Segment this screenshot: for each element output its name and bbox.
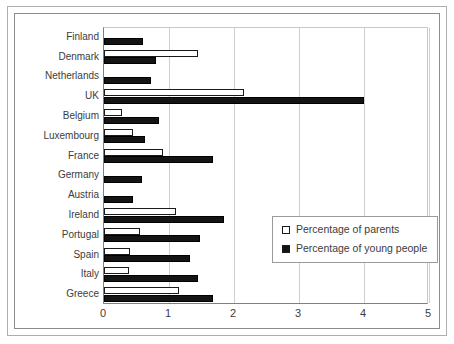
bar-belgium-parents bbox=[104, 109, 122, 116]
bar-austria-young-people bbox=[104, 196, 133, 203]
x-tick-2: 2 bbox=[221, 307, 245, 319]
bar-greece-young-people bbox=[104, 295, 213, 302]
bar-denmark-young-people bbox=[104, 57, 156, 64]
bar-luxembourg-young-people bbox=[104, 136, 145, 143]
category-label-greece: Greece bbox=[14, 288, 99, 299]
x-tick-0: 0 bbox=[91, 307, 115, 319]
legend-box: Percentage of parents Percentage of youn… bbox=[272, 216, 438, 263]
category-label-spain: Spain bbox=[14, 249, 99, 260]
bar-greece-parents bbox=[104, 287, 179, 294]
bar-row bbox=[104, 147, 427, 167]
bar-spain-young-people bbox=[104, 255, 190, 262]
bar-luxembourg-parents bbox=[104, 129, 133, 136]
chart-figure: FinlandDenmarkNetherlandsUKBelgiumLuxemb… bbox=[0, 0, 454, 344]
legend-item-young-people: Percentage of young people bbox=[282, 243, 427, 254]
bar-row bbox=[104, 167, 427, 187]
bar-row bbox=[104, 265, 427, 285]
category-label-belgium: Belgium bbox=[14, 110, 99, 121]
bar-uk-parents bbox=[104, 89, 244, 96]
legend-label-young-people: Percentage of young people bbox=[296, 243, 427, 254]
bar-portugal-parents bbox=[104, 228, 140, 235]
bar-belgium-young-people bbox=[104, 117, 159, 124]
bar-france-young-people bbox=[104, 156, 213, 163]
bar-row bbox=[104, 127, 427, 147]
bar-row bbox=[104, 68, 427, 88]
bar-portugal-young-people bbox=[104, 235, 200, 242]
category-label-germany: Germany bbox=[14, 169, 99, 180]
x-tick-4: 4 bbox=[351, 307, 375, 319]
bar-spain-parents bbox=[104, 248, 130, 255]
bar-row bbox=[104, 48, 427, 68]
bar-italy-young-people bbox=[104, 275, 198, 282]
bar-row bbox=[104, 107, 427, 127]
x-tick-5: 5 bbox=[416, 307, 440, 319]
category-label-portugal: Portugal bbox=[14, 229, 99, 240]
category-label-finland: Finland bbox=[14, 31, 99, 42]
bar-finland-young-people bbox=[104, 38, 143, 45]
bar-netherlands-young-people bbox=[104, 77, 151, 84]
bar-row bbox=[104, 285, 427, 305]
category-label-denmark: Denmark bbox=[14, 51, 99, 62]
x-tick-3: 3 bbox=[286, 307, 310, 319]
bar-france-parents bbox=[104, 149, 163, 156]
bar-denmark-parents bbox=[104, 50, 198, 57]
category-label-france: France bbox=[14, 150, 99, 161]
bar-uk-young-people bbox=[104, 97, 364, 104]
category-label-ireland: Ireland bbox=[14, 209, 99, 220]
category-label-netherlands: Netherlands bbox=[14, 70, 99, 81]
bar-row bbox=[104, 28, 427, 48]
legend-item-parents: Percentage of parents bbox=[282, 224, 399, 235]
x-tick-1: 1 bbox=[156, 307, 180, 319]
bar-ireland-parents bbox=[104, 208, 176, 215]
legend-swatch-parents-icon bbox=[282, 226, 290, 234]
chart-plot-area: FinlandDenmarkNetherlandsUKBelgiumLuxemb… bbox=[0, 0, 454, 344]
category-label-italy: Italy bbox=[14, 268, 99, 279]
category-label-uk: UK bbox=[14, 90, 99, 101]
bar-row bbox=[104, 186, 427, 206]
category-axis-labels: FinlandDenmarkNetherlandsUKBelgiumLuxemb… bbox=[14, 27, 99, 304]
bar-germany-young-people bbox=[104, 176, 142, 183]
bar-row bbox=[104, 87, 427, 107]
category-label-austria: Austria bbox=[14, 189, 99, 200]
legend-label-parents: Percentage of parents bbox=[296, 224, 399, 235]
bar-italy-parents bbox=[104, 267, 129, 274]
bar-ireland-young-people bbox=[104, 216, 224, 223]
legend-swatch-young-people-icon bbox=[282, 245, 290, 253]
category-label-luxembourg: Luxembourg bbox=[14, 130, 99, 141]
